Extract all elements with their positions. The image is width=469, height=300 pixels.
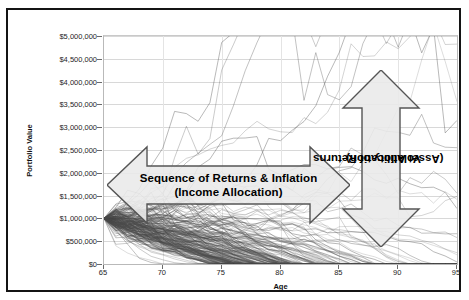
- y-axis-tick: [97, 264, 102, 265]
- x-axis-tick-label: 70: [158, 268, 166, 277]
- y-axis-tick: [97, 218, 102, 219]
- simulation-path: [104, 36, 457, 224]
- y-axis-tick: [97, 241, 102, 242]
- x-axis-title: Age: [103, 282, 458, 291]
- y-axis-tick: [97, 59, 102, 60]
- x-axis-tick-label: 95: [452, 268, 460, 277]
- plot-area: [103, 35, 458, 265]
- simulation-path: [104, 36, 457, 218]
- y-axis-tick: [97, 150, 102, 151]
- x-axis-tick-label: 80: [275, 268, 283, 277]
- y-axis-tick: [97, 36, 102, 37]
- y-axis-tick: [97, 173, 102, 174]
- x-axis-tick-labels: 65707580859095: [103, 268, 458, 282]
- simulation-path: [104, 137, 457, 219]
- simulation-path: [104, 36, 457, 218]
- simulation-path: [104, 36, 457, 218]
- simulation-path: [104, 36, 457, 218]
- monte-carlo-paths: [104, 36, 457, 264]
- gridline-vertical: [457, 36, 458, 264]
- cut-off-header-sliver: [0, 0, 469, 6]
- y-axis-tick: [97, 104, 102, 105]
- chart-outer-frame: Portfolio Value $0$500,000$1,000,000$1,5…: [6, 8, 461, 292]
- y-axis-tick-marks: [8, 35, 103, 265]
- simulation-path: [104, 36, 457, 218]
- x-axis-tick-label: 90: [393, 268, 401, 277]
- y-axis-tick: [97, 196, 102, 197]
- x-axis-tick-label: 75: [216, 268, 224, 277]
- chart-screenshot: Portfolio Value $0$500,000$1,000,000$1,5…: [0, 0, 469, 300]
- y-axis-tick: [97, 127, 102, 128]
- simulation-path: [104, 148, 457, 218]
- y-axis-tick: [97, 82, 102, 83]
- x-axis-tick-label: 65: [99, 268, 107, 277]
- x-axis-tick-label: 85: [334, 268, 342, 277]
